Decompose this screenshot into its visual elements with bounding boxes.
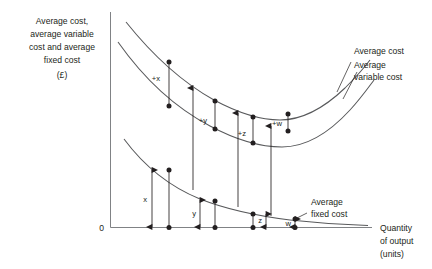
x-axis-title-line-2: of output <box>380 236 414 246</box>
gap-upper-label-x: +x <box>152 74 160 83</box>
axis-point-y <box>213 225 218 230</box>
upper-arrow-group <box>193 88 271 216</box>
avc-point-x <box>167 104 172 109</box>
y-axis-title-line-1: Average cost, <box>36 16 88 26</box>
y-axis-title-line-3: cost and average <box>29 42 95 52</box>
leader-average-fixed-cost <box>297 213 307 218</box>
afc-point-y <box>213 199 218 204</box>
afc-point-x <box>167 168 172 173</box>
y-axis-title-line-2: average variable <box>30 29 94 39</box>
gap-upper-label-w: +w <box>272 119 282 128</box>
gap-lower-label-z: z <box>258 216 262 225</box>
y-axis-title-line-5: (£) <box>57 70 68 80</box>
ac-point-w <box>286 112 291 117</box>
axis-point-z <box>251 225 256 230</box>
x-axis-title-line-3: (units) <box>380 249 404 259</box>
gap-lower-label-x: x <box>143 195 147 204</box>
gap-measure-lower-x: x <box>143 168 171 231</box>
avc-point-w <box>286 129 291 134</box>
gap-measure-upper-w: +w <box>272 112 290 134</box>
afc-point-w <box>293 217 298 222</box>
average-cost-label: Average cost <box>354 46 405 56</box>
y-axis-title: Average cost, average variable cost and … <box>29 16 95 80</box>
average-fixed-cost-label-line-1: Average <box>311 197 343 207</box>
gap-measure-upper-y: +y <box>199 99 218 132</box>
ac-point-y <box>213 99 218 104</box>
axis-point-w <box>293 225 298 230</box>
axis-point-x <box>167 225 172 230</box>
gap-measure-upper-z: +z <box>238 115 256 146</box>
gap-lower-label-w: w <box>285 219 292 228</box>
cost-curves-diagram: Average cost, average variable cost and … <box>0 0 432 269</box>
origin-label: 0 <box>99 223 104 233</box>
average-cost-curve <box>126 22 370 120</box>
gap-upper-label-z: +z <box>238 129 246 138</box>
average-variable-cost-label-line-2: variable cost <box>354 72 403 82</box>
avc-point-z <box>251 141 256 146</box>
average-variable-cost-label-line-1: Average <box>354 60 386 70</box>
gap-measure-lower-y: y <box>192 199 217 231</box>
average-fixed-cost-label-line-2: fixed cost <box>311 209 348 219</box>
average-variable-cost-curve <box>118 42 374 147</box>
axes-group <box>111 12 373 228</box>
avc-point-y <box>213 127 218 132</box>
gap-upper-label-y: +y <box>199 116 207 125</box>
afc-point-z <box>251 212 256 217</box>
ac-point-z <box>251 115 256 120</box>
y-axis-title-line-4: fixed cost <box>44 55 81 65</box>
x-axis-title: Quantity of output (units) <box>380 223 414 259</box>
gap-lower-label-y: y <box>192 209 196 218</box>
diagram-canvas: Average cost, average variable cost and … <box>0 0 432 269</box>
ac-point-x <box>167 60 172 65</box>
x-axis-title-line-1: Quantity <box>380 223 413 233</box>
